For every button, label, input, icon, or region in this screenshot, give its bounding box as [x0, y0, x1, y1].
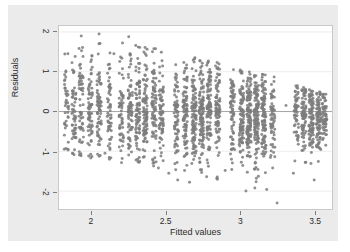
- x-tick-mark: [91, 211, 92, 215]
- x-tick-mark: [166, 211, 167, 215]
- y-tick-label: 0: [41, 109, 50, 114]
- y-tick-mark: [53, 152, 57, 153]
- x-axis-title: Fitted values: [58, 227, 333, 237]
- y-tick-label: 2: [41, 29, 50, 34]
- graph-region: Residuals 210-1-2 22.533.5 Fitted values: [8, 5, 338, 241]
- x-tick-label: 3: [238, 217, 243, 226]
- plot-area: [58, 25, 333, 210]
- plot-surface: [59, 26, 332, 209]
- y-tick-mark: [53, 111, 57, 112]
- y-tick-label: -1: [41, 148, 50, 156]
- scatter-points-layer: [59, 26, 332, 209]
- y-tick-mark: [53, 31, 57, 32]
- y-tick-label: 1: [41, 69, 50, 74]
- y-tick-mark: [53, 71, 57, 72]
- y-axis-title: Residuals: [10, 58, 20, 98]
- y-tick-mark: [53, 192, 57, 193]
- y-tick-label: -2: [41, 188, 50, 196]
- x-tick-label: 2.5: [160, 217, 172, 226]
- x-tick-label: 2: [89, 217, 94, 226]
- x-tick-mark: [240, 211, 241, 215]
- x-tick-label: 3.5: [309, 217, 321, 226]
- scatter-plot-screenshot: Residuals 210-1-2 22.533.5 Fitted values: [0, 0, 350, 252]
- x-tick-mark: [315, 211, 316, 215]
